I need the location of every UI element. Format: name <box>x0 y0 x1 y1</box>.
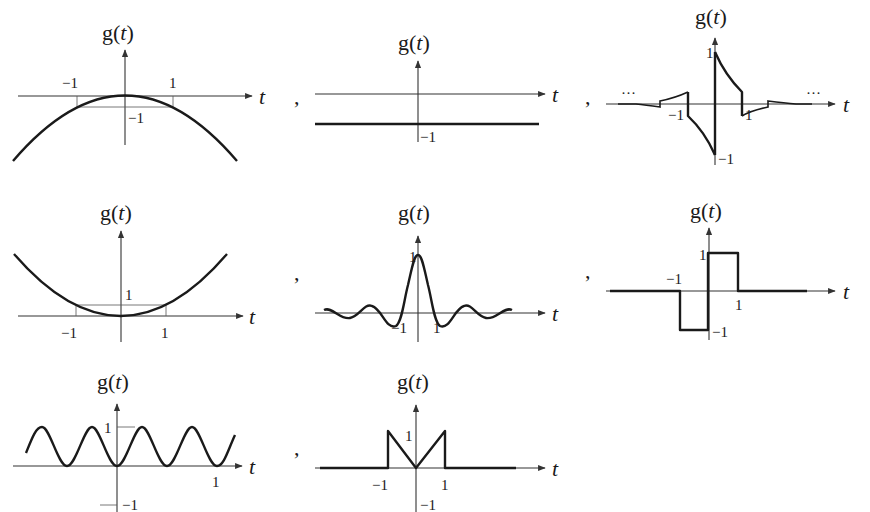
panel-6-title: g(t) <box>690 198 722 223</box>
panel-3-tick-ypos: 1 <box>706 45 714 61</box>
panel-7-raised-cosine: g(t) 1 −1 1 t , <box>13 369 300 512</box>
panel-1-tick-xpos: 1 <box>169 75 177 91</box>
panel-3-odd-decaying: g(t) ··· ··· 1 −1 −1 1 t <box>606 4 850 167</box>
panel-3-ellipsis-right: ··· <box>806 85 821 101</box>
panel-4-tick-ypos: 1 <box>125 287 133 303</box>
panel-4-x-label: t <box>249 304 256 329</box>
panel-2-x-label: t <box>552 82 559 107</box>
panel-3-tick-xneg: −1 <box>668 107 684 123</box>
panel-6-tick-ypos: 1 <box>699 247 707 263</box>
panel-7-tick-yneg: −1 <box>122 497 138 512</box>
separator-comma: , <box>294 84 300 109</box>
panel-2-constant: g(t) −1 t , <box>315 30 591 145</box>
panel-1-tick-xneg: −1 <box>62 75 78 91</box>
panel-4-upward-parabola: g(t) 1 −1 1 t , <box>14 200 300 342</box>
panel-4-tick-xneg: −1 <box>61 325 77 341</box>
panel-7-curve <box>26 427 235 466</box>
panel-3-curve-right-tail <box>742 101 812 116</box>
panel-6-doublet: g(t) 1 −1 −1 1 t <box>606 198 850 340</box>
panel-7-tick-ypos: 1 <box>104 420 112 436</box>
panel-8-curve <box>320 431 516 468</box>
panel-8-tick-xneg: −1 <box>372 477 388 493</box>
panel-6-tick-yneg: −1 <box>712 324 728 340</box>
panel-7-tick-xpos: 1 <box>212 474 220 490</box>
panel-3-curve-right-main <box>715 52 742 116</box>
panel-5-tick-xneg: −1 <box>391 320 407 336</box>
separator-comma: , <box>585 258 591 283</box>
panel-8-tick-xpos: 1 <box>441 477 449 493</box>
panel-3-title: g(t) <box>695 4 727 29</box>
panel-8-absolute-value-window: g(t) 1 −1 −1 1 t <box>315 369 559 512</box>
panel-1-tick-yneg: −1 <box>128 110 144 126</box>
panel-4-tick-xpos: 1 <box>161 325 169 341</box>
panel-5-title: g(t) <box>398 200 430 225</box>
panel-5-tick-ypos: 1 <box>409 249 417 265</box>
panel-8-tick-ypos: 1 <box>405 428 413 444</box>
separator-comma: , <box>294 260 300 285</box>
separator-comma: , <box>294 435 300 460</box>
panel-4-title: g(t) <box>100 200 132 225</box>
panel-8-title: g(t) <box>397 369 429 394</box>
function-graphs-figure: g(t) −1 1 −1 t , g(t) −1 t , g(t) ··· ··… <box>0 0 870 512</box>
panel-1-x-label: t <box>259 84 266 109</box>
panel-1-title: g(t) <box>102 20 134 45</box>
panel-3-tick-xpos: 1 <box>745 107 753 123</box>
panel-8-tick-yneg: −1 <box>420 497 436 512</box>
panel-2-tick-yneg: −1 <box>420 129 436 145</box>
panel-5-x-label: t <box>552 301 559 326</box>
panel-3-x-label: t <box>843 92 850 117</box>
panel-1-downward-parabola: g(t) −1 1 −1 t , <box>13 20 300 161</box>
panel-7-title: g(t) <box>97 369 129 394</box>
panel-6-curve <box>610 253 807 330</box>
panel-6-x-label: t <box>843 279 850 304</box>
panel-6-tick-xpos: 1 <box>735 297 743 313</box>
separator-comma: , <box>585 84 591 109</box>
panel-5-sinc: g(t) 1 −1 1 t , <box>315 200 591 342</box>
panel-3-tick-yneg: −1 <box>718 151 734 167</box>
panel-3-curve-left-main <box>688 92 715 155</box>
panel-2-title: g(t) <box>398 30 430 55</box>
panel-3-ellipsis-left: ··· <box>621 85 636 101</box>
panel-6-tick-xneg: −1 <box>666 271 682 287</box>
panel-7-x-label: t <box>249 454 256 479</box>
panel-8-x-label: t <box>552 456 559 481</box>
panel-5-tick-xpos: 1 <box>433 320 441 336</box>
